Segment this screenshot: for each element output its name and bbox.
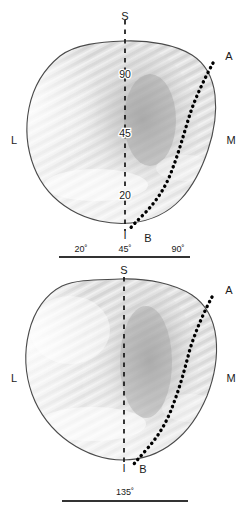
lower-label-inferior: I xyxy=(122,462,125,474)
upper-scale-tick-20: 20˚ xyxy=(74,244,87,254)
upper-label-curve-a: A xyxy=(225,50,233,62)
upper-label-inferior: I xyxy=(123,229,126,241)
lower-label-medial: M xyxy=(226,372,235,384)
lower-scale-tick-135: 135˚ xyxy=(116,487,134,497)
upper-meridian-tick-45: 45 xyxy=(119,127,131,139)
upper-meridian-tick-90: 90 xyxy=(119,68,131,80)
lower-label-curve-a: A xyxy=(225,284,233,296)
upper-label-medial: M xyxy=(226,134,235,146)
upper-label-lateral: L xyxy=(11,134,17,146)
upper-scale-tick-90: 90˚ xyxy=(171,244,184,254)
lower-label-superior: S xyxy=(120,264,127,276)
upper-meridian-tick-20: 20 xyxy=(119,189,131,201)
lower-label-curve-b: B xyxy=(139,463,146,475)
figure-root: S I L M A B 90 45 20 20˚ 45˚ 90˚ xyxy=(0,0,246,514)
lower-label-lateral: L xyxy=(11,372,17,384)
upper-scale-tick-45: 45˚ xyxy=(118,244,131,254)
upper-label-superior: S xyxy=(121,10,128,22)
upper-label-curve-b: B xyxy=(144,232,151,244)
